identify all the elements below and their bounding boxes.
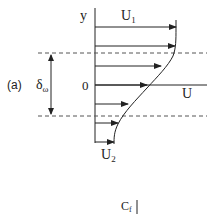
- mixing-layer-diagram: (a) y 0 U1 U U2 δω Cf: [0, 0, 219, 214]
- x-axis-label: U: [182, 86, 192, 101]
- velocity-profile-curve: [114, 20, 176, 144]
- next-panel-label: Cf: [121, 199, 132, 214]
- origin-label: 0: [82, 78, 89, 93]
- panel-label: (a): [7, 78, 22, 92]
- thickness-arrow-head-bottom: [48, 108, 54, 115]
- upper-velocity-label: U1: [121, 8, 136, 25]
- thickness-label: δω: [36, 77, 49, 94]
- thickness-arrow-head-top: [48, 54, 54, 61]
- y-axis-label: y: [80, 8, 87, 23]
- lower-velocity-label: U2: [101, 147, 116, 164]
